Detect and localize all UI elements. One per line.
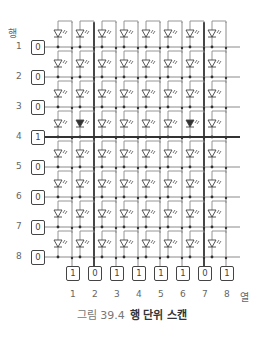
row-label: 5 [16, 161, 22, 171]
column-label: 8 [224, 289, 230, 299]
led [98, 81, 117, 109]
column-value-box: 0 [198, 266, 212, 281]
led [164, 201, 183, 229]
led [142, 81, 161, 109]
led [54, 171, 73, 199]
column-value-box: 1 [132, 266, 146, 281]
column-label: 1 [70, 289, 76, 299]
led [98, 201, 117, 229]
led [98, 171, 117, 199]
column-label: 4 [136, 289, 142, 299]
led [208, 231, 227, 259]
led [186, 201, 205, 229]
led [208, 201, 227, 229]
led [98, 51, 117, 79]
led [164, 21, 183, 49]
caption-number: 그림 39.4 [77, 309, 125, 322]
row-value-box: 0 [31, 190, 45, 205]
led [186, 51, 205, 79]
led [186, 111, 205, 139]
column-label: 3 [114, 289, 120, 299]
column-value-box: 1 [220, 266, 234, 281]
led [98, 141, 117, 169]
led [54, 111, 73, 139]
led [186, 21, 205, 49]
led [142, 141, 161, 169]
led [120, 231, 139, 259]
row-value-box: 0 [31, 70, 45, 85]
row-value-box: 1 [31, 130, 45, 145]
led [142, 171, 161, 199]
led [120, 81, 139, 109]
led [98, 231, 117, 259]
led [142, 201, 161, 229]
column-value-box: 1 [154, 266, 168, 281]
led [98, 111, 117, 139]
led [54, 201, 73, 229]
led [142, 51, 161, 79]
row-label: 8 [16, 251, 22, 261]
led [142, 21, 161, 49]
column-label: 2 [92, 289, 98, 299]
row-value-box: 0 [31, 160, 45, 175]
led [164, 171, 183, 199]
led [208, 81, 227, 109]
led [76, 111, 95, 139]
row-axis-label: 행 [8, 25, 17, 40]
column-value-box: 1 [110, 266, 124, 281]
column-label: 5 [158, 289, 164, 299]
led [120, 171, 139, 199]
row-label: 2 [16, 71, 22, 81]
row-value-box: 0 [31, 250, 45, 265]
row-label: 3 [16, 101, 22, 111]
figure-caption: 그림 39.4행 단위 스캔 [0, 306, 264, 322]
led [76, 141, 95, 169]
row-value-box: 0 [31, 220, 45, 235]
led [54, 51, 73, 79]
led [76, 231, 95, 259]
led [142, 231, 161, 259]
col-axis-label: 열 [240, 289, 249, 304]
column-value-box: 1 [66, 266, 80, 281]
led [54, 141, 73, 169]
led [76, 81, 95, 109]
led [186, 141, 205, 169]
led [76, 51, 95, 79]
column-label: 6 [180, 289, 186, 299]
row-label: 7 [16, 221, 22, 231]
led [76, 171, 95, 199]
row-value-box: 0 [31, 100, 45, 115]
led [164, 81, 183, 109]
led [98, 21, 117, 49]
led [76, 201, 95, 229]
led [120, 21, 139, 49]
row-label: 4 [16, 131, 22, 141]
led [208, 51, 227, 79]
led [164, 231, 183, 259]
row-label: 1 [16, 41, 22, 51]
led [208, 171, 227, 199]
led [120, 51, 139, 79]
caption-title: 행 단위 스캔 [130, 309, 188, 322]
led [186, 171, 205, 199]
led [186, 81, 205, 109]
column-label: 7 [202, 289, 208, 299]
led [76, 21, 95, 49]
led [164, 51, 183, 79]
column-value-box: 0 [88, 266, 102, 281]
led [208, 141, 227, 169]
led [120, 201, 139, 229]
led [54, 81, 73, 109]
column-value-box: 1 [176, 266, 190, 281]
led [186, 231, 205, 259]
led [54, 21, 73, 49]
led [120, 141, 139, 169]
led [142, 111, 161, 139]
led [54, 231, 73, 259]
led [120, 111, 139, 139]
led [164, 111, 183, 139]
led [164, 141, 183, 169]
row-label: 6 [16, 191, 22, 201]
led [208, 21, 227, 49]
led [208, 111, 227, 139]
